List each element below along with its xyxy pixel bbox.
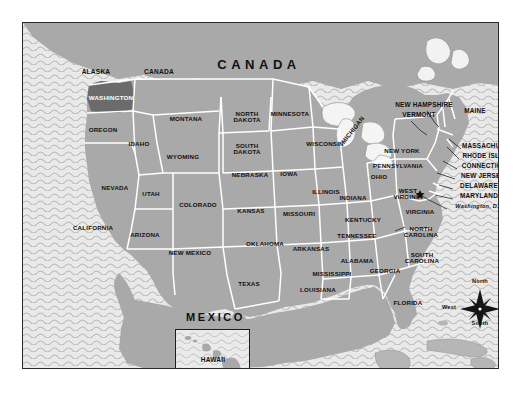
state-label-montana: MONTANA bbox=[154, 116, 218, 122]
state-label-kentucky: KENTUCKY bbox=[331, 217, 395, 223]
ne-label-maryland: MARYLAND bbox=[436, 193, 499, 200]
us-map-figure: ALASKA CANADA HAWAII CANADA MEXICO bbox=[0, 0, 518, 395]
state-label-utah: UTAH bbox=[119, 191, 183, 197]
state-label-texas: TEXAS bbox=[217, 281, 281, 287]
state-label-south-carolina: SOUTH CAROLINA bbox=[390, 252, 454, 265]
ne-label-delaware: DELAWARE bbox=[436, 183, 499, 190]
state-label-new-york: NEW YORK bbox=[370, 148, 434, 154]
compass-label-north: North bbox=[460, 279, 499, 285]
state-label-idaho: IDAHO bbox=[107, 141, 171, 147]
state-label-south-dakota: SOUTH DAKOTA bbox=[215, 143, 279, 156]
state-label-washington: WASHINGTON bbox=[79, 95, 143, 101]
state-label-missouri: MISSOURI bbox=[267, 211, 331, 217]
state-label-california: CALIFORNIA bbox=[61, 225, 125, 231]
state-label-wyoming: WYOMING bbox=[151, 154, 215, 160]
state-label-west-virginia: WEST VIRGINIA bbox=[376, 188, 440, 201]
ne-label-washington-d-c: Washington, D.C. bbox=[437, 204, 499, 210]
state-label-minnesota: MINNESOTA bbox=[258, 111, 322, 117]
state-label-arizona: ARIZONA bbox=[113, 232, 177, 238]
inset-label-canada: CANADA bbox=[129, 69, 189, 76]
ne-label-massachusetts: MASSACHUSETTS bbox=[449, 143, 499, 150]
inset-hawaii: HAWAII bbox=[175, 329, 250, 369]
inset-label-alaska: ALASKA bbox=[68, 69, 124, 76]
state-label-new-mexico: NEW MEXICO bbox=[158, 250, 222, 256]
ne-label-new-jersey: NEW JERSEY bbox=[440, 173, 499, 180]
ne-label-rhode-island: RHODE ISLAND bbox=[445, 153, 499, 160]
ne-label-connecticut: CONNECTICUT bbox=[443, 163, 499, 170]
state-label-iowa: IOWA bbox=[257, 171, 321, 177]
state-label-tennessee: TENNESSEE bbox=[325, 233, 389, 239]
state-label-arkansas: ARKANSAS bbox=[279, 246, 343, 252]
map-plate: ALASKA CANADA HAWAII CANADA MEXICO bbox=[22, 22, 499, 369]
compass-label-south: South bbox=[460, 321, 499, 327]
country-label-canada: CANADA bbox=[209, 58, 309, 71]
inset-label-hawaii: HAWAII bbox=[189, 357, 237, 364]
state-label-oregon: OREGON bbox=[71, 127, 135, 133]
state-label-virginia: VIRGINIA bbox=[388, 209, 452, 215]
ne-label-maine: MAINE bbox=[432, 108, 499, 115]
state-label-florida: FLORIDA bbox=[376, 300, 440, 306]
state-label-georgia: GEORGIA bbox=[353, 268, 417, 274]
state-label-north-carolina: NORTH CAROLINA bbox=[389, 226, 453, 239]
state-label-ohio: OHIO bbox=[347, 174, 411, 180]
state-label-louisiana: LOUISIANA bbox=[286, 287, 350, 293]
state-label-pennsylvania: PENNSYLVANIA bbox=[366, 163, 430, 169]
compass-label-west: West bbox=[437, 305, 461, 311]
country-label-mexico: MEXICO bbox=[173, 312, 258, 323]
state-label-alabama: ALABAMA bbox=[325, 258, 389, 264]
